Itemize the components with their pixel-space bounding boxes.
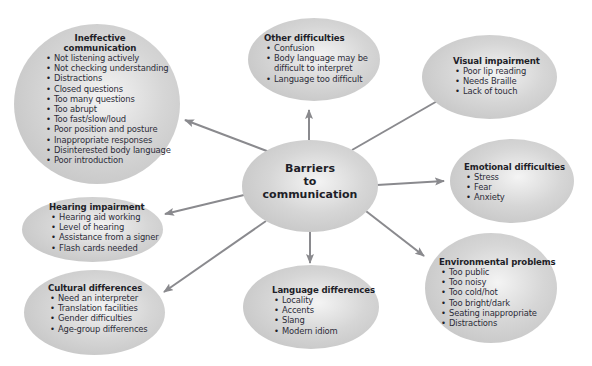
- list-item: Too fast/slow/loud: [46, 114, 171, 124]
- node-center-barriers: Barriers to communication: [242, 140, 378, 232]
- item-list: Stress Fear Anxiety: [466, 172, 565, 203]
- list-item: Confusion: [266, 43, 368, 53]
- item-list: Confusion Body language may be difficult…: [266, 43, 368, 84]
- list-item: Locality: [274, 295, 375, 305]
- list-item: Flash cards needed: [51, 243, 159, 253]
- list-item: Needs Braille: [455, 76, 540, 86]
- item-list: Need an interpreter Translation faciliti…: [50, 293, 148, 334]
- list-item-continuation: difficult to interpret: [266, 63, 368, 73]
- arrow-to-emotional: [377, 181, 444, 185]
- list-item: Seating inappropriate: [441, 308, 556, 318]
- node-title: Environmental problems: [439, 257, 556, 267]
- node-language-differences: Language differences Locality Accents Sl…: [243, 265, 379, 349]
- node-title: communication: [44, 43, 156, 53]
- list-item: Not checking understanding: [46, 63, 171, 73]
- list-item: Assistance from a signer: [51, 232, 159, 242]
- arrow-to-ineffective: [185, 120, 272, 153]
- list-item: Level of hearing: [51, 222, 159, 232]
- list-item: Distractions: [441, 318, 556, 328]
- item-list: Hearing aid working Level of hearing Ass…: [51, 212, 159, 253]
- list-item: Inappropriate responses: [46, 135, 171, 145]
- list-item: Stress: [466, 172, 565, 182]
- list-item: Need an interpreter: [50, 293, 148, 303]
- list-item: Translation facilities: [50, 303, 148, 313]
- list-item: Hearing aid working: [51, 212, 159, 222]
- list-item: Fear: [466, 182, 565, 192]
- node-visual-impairment: Visual impairment Poor lip reading Needs…: [422, 35, 557, 119]
- node-title: Cultural differences: [48, 283, 148, 293]
- node-title: Language differences: [272, 285, 375, 295]
- node-title: Emotional difficulties: [464, 162, 565, 172]
- node-title: Ineffective: [44, 33, 156, 43]
- node-hearing-impairment: Hearing impairment Hearing aid working L…: [22, 197, 163, 262]
- list-item: Too noisy: [441, 277, 556, 287]
- list-item: Language too difficult: [266, 74, 368, 84]
- arrow-to-environmental: [362, 208, 424, 256]
- node-title: Hearing impairment: [49, 202, 159, 212]
- arrow-to-hearing: [165, 195, 244, 214]
- list-item: Modern idiom: [274, 326, 375, 336]
- item-list: Too public Too noisy Too cold/hot Too br…: [441, 267, 556, 328]
- list-item: Poor lip reading: [455, 66, 540, 76]
- list-item: Not listening actively: [46, 53, 171, 63]
- list-item: Poor introduction: [46, 155, 171, 165]
- list-item: Too cold/hot: [441, 287, 556, 297]
- list-item: Age-group differences: [50, 324, 148, 334]
- list-item: Accents: [274, 305, 375, 315]
- item-list: Poor lip reading Needs Braille Lack of t…: [455, 66, 540, 97]
- list-item: Too bright/dark: [441, 298, 556, 308]
- item-list: Not listening actively Not checking unde…: [46, 53, 171, 165]
- node-title: Visual impairment: [453, 56, 540, 66]
- list-item: Too many questions: [46, 94, 171, 104]
- node-other-difficulties: Other difficulties Confusion Body langua…: [248, 18, 380, 101]
- item-list: Locality Accents Slang Modern idiom: [274, 295, 375, 336]
- node-title: Other difficulties: [264, 33, 368, 43]
- list-item: Poor position and posture: [46, 124, 171, 134]
- list-item: Slang: [274, 315, 375, 325]
- node-cultural-differences: Cultural differences Need an interpreter…: [24, 270, 165, 355]
- list-item: Lack of touch: [455, 86, 540, 96]
- list-item: Disinterested body language: [46, 145, 171, 155]
- list-item: Distractions: [46, 73, 171, 83]
- arrow-to-visual: [352, 96, 446, 150]
- list-item: Too public: [441, 267, 556, 277]
- list-item: Closed questions: [46, 84, 171, 94]
- list-item: Body language may be: [266, 53, 368, 63]
- arrow-to-cultural: [164, 221, 266, 292]
- node-emotional-difficulties: Emotional difficulties Stress Fear Anxie…: [450, 139, 574, 223]
- center-title-line3: communication: [242, 188, 378, 201]
- list-item: Anxiety: [466, 192, 565, 202]
- list-item: Gender difficulties: [50, 313, 148, 323]
- center-title-line2: to: [242, 175, 378, 188]
- center-title-line1: Barriers: [242, 162, 378, 175]
- node-ineffective-communication: Ineffective communication Not listening …: [14, 24, 180, 184]
- node-environmental-problems: Environmental problems Too public Too no…: [425, 233, 557, 343]
- list-item: Too abrupt: [46, 104, 171, 114]
